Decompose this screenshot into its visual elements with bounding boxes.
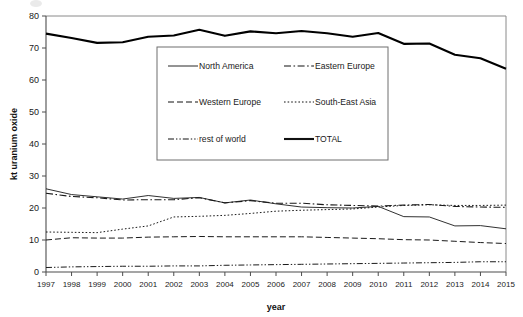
y-axis-title: kt uranium oxide xyxy=(9,108,19,180)
legend-label-total: TOTAL xyxy=(315,134,342,144)
y-tick-label: 0 xyxy=(34,267,39,277)
x-tick-label: 2015 xyxy=(497,280,515,289)
x-tick-label: 1998 xyxy=(63,280,81,289)
legend-label-south-east-asia: South-East Asia xyxy=(315,97,376,107)
x-tick-label: 2007 xyxy=(293,280,311,289)
x-tick-label: 2000 xyxy=(114,280,132,289)
x-tick-label: 2012 xyxy=(420,280,438,289)
x-axis-ticks: 1997199819992000200120022003200420052006… xyxy=(37,272,515,289)
x-tick-label: 2003 xyxy=(190,280,208,289)
x-tick-label: 2006 xyxy=(267,280,285,289)
legend-label-north-america: North America xyxy=(199,61,254,71)
legend-label-eastern-europe: Eastern Europe xyxy=(315,61,375,71)
y-tick-label: 60 xyxy=(29,75,39,85)
x-tick-label: 2004 xyxy=(216,280,234,289)
x-tick-label: 1997 xyxy=(37,280,55,289)
x-tick-label: 2009 xyxy=(344,280,362,289)
y-tick-label: 40 xyxy=(29,139,39,149)
x-axis-title: year xyxy=(267,302,286,312)
y-axis-ticks: 01020304050607080 xyxy=(29,11,46,277)
y-tick-label: 10 xyxy=(29,235,39,245)
y-tick-label: 50 xyxy=(29,107,39,117)
x-tick-label: 2002 xyxy=(165,280,183,289)
legend-label-western-europe: Western Europe xyxy=(199,97,261,107)
y-tick-label: 30 xyxy=(29,171,39,181)
x-tick-label: 2001 xyxy=(139,280,157,289)
chart-figure: 01020304050607080 1997199819992000200120… xyxy=(0,0,523,317)
x-tick-label: 1999 xyxy=(88,280,106,289)
y-tick-label: 70 xyxy=(29,43,39,53)
line-chart: 01020304050607080 1997199819992000200120… xyxy=(0,0,523,317)
x-tick-label: 2008 xyxy=(318,280,336,289)
legend-label-rest-of-world: rest of world xyxy=(199,134,246,144)
x-tick-label: 2013 xyxy=(446,280,464,289)
x-tick-label: 2010 xyxy=(369,280,387,289)
x-tick-label: 2005 xyxy=(242,280,260,289)
x-tick-label: 2014 xyxy=(472,280,490,289)
x-tick-label: 2011 xyxy=(395,280,413,289)
y-tick-label: 20 xyxy=(29,203,39,213)
y-tick-label: 80 xyxy=(29,11,39,21)
